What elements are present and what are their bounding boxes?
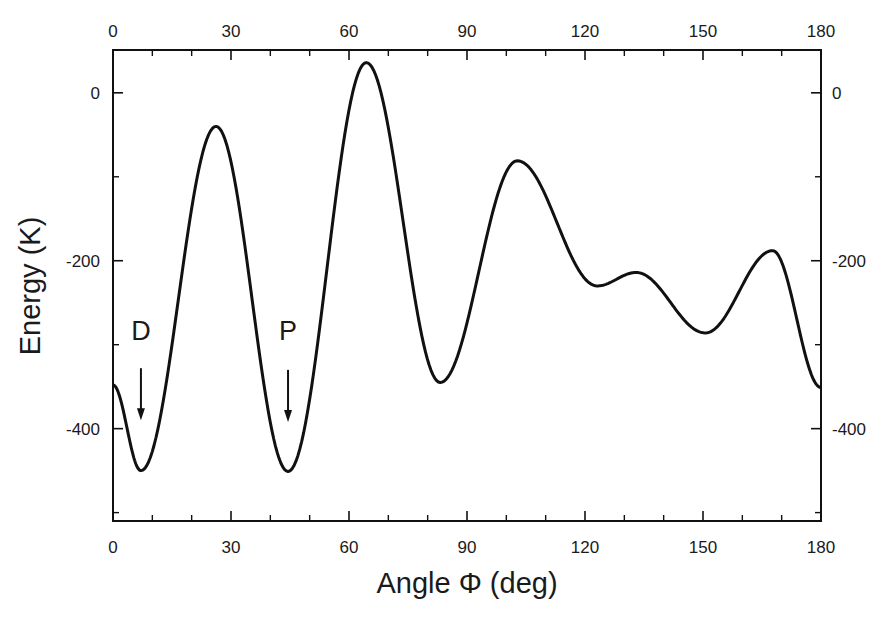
- y-axis-title: Energy (K): [14, 217, 46, 356]
- x-tick-label-bottom: 120: [571, 538, 599, 557]
- x-tick-label-bottom: 0: [108, 538, 117, 557]
- x-tick-label-top: 30: [222, 22, 241, 41]
- y-tick-label-left: 0: [91, 84, 100, 103]
- x-tick-label-bottom: 30: [222, 538, 241, 557]
- y-tick-label-right: -400: [832, 420, 866, 439]
- arrowhead-icon: [137, 408, 145, 420]
- x-tick-label-bottom: 150: [689, 538, 717, 557]
- y-tick-label-left: -200: [66, 252, 100, 271]
- annotation-p: P: [279, 316, 297, 421]
- energy-curve: [113, 63, 821, 472]
- axis-ticks: [113, 50, 821, 521]
- arrowhead-icon: [284, 410, 292, 422]
- x-tick-label-top: 120: [571, 22, 599, 41]
- x-tick-label-bottom: 60: [340, 538, 359, 557]
- plot-frame: [113, 50, 821, 521]
- annotation-d: D: [131, 316, 151, 420]
- annotation-label: D: [131, 316, 151, 346]
- x-tick-label-bottom: 180: [807, 538, 835, 557]
- plot-border: [113, 50, 821, 521]
- x-tick-label-bottom: 90: [458, 538, 477, 557]
- x-tick-label-top: 60: [340, 22, 359, 41]
- x-tick-label-top: 0: [108, 22, 117, 41]
- x-tick-label-top: 180: [807, 22, 835, 41]
- x-axis-title: Angle Φ (deg): [376, 567, 557, 599]
- y-tick-label-right: -200: [832, 252, 866, 271]
- y-tick-label-right: 0: [832, 84, 841, 103]
- axis-tick-labels: 0030306060909012012015015018018000-200-2…: [66, 22, 866, 557]
- x-tick-label-top: 150: [689, 22, 717, 41]
- x-tick-label-top: 90: [458, 22, 477, 41]
- annotation-label: P: [279, 316, 297, 346]
- energy-angle-chart: 0030306060909012012015015018018000-200-2…: [0, 0, 886, 619]
- minimum-annotations: DP: [131, 316, 297, 421]
- y-tick-label-left: -400: [66, 420, 100, 439]
